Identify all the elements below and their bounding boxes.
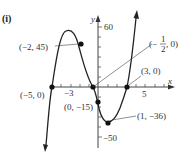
x-tick-label: −3 <box>64 88 74 98</box>
x-axis-label: x <box>167 76 172 86</box>
y-axis-label: y <box>90 14 95 24</box>
point-label: (1, −36) <box>137 111 166 121</box>
point-label: (3, 0) <box>141 66 161 76</box>
point-label: (−2, 45) <box>19 42 48 52</box>
x-tick-label: 5 <box>142 89 147 99</box>
point-label-fraction: (− 1 2 , 0) <box>149 34 178 54</box>
y-tick-label: −50 <box>103 133 118 143</box>
point-label: (−5, 0) <box>20 90 45 100</box>
svg-text:2: 2 <box>161 44 166 54</box>
point-label: (0, −15) <box>64 102 93 112</box>
svg-text:(−: (− <box>149 39 157 49</box>
x-axis: x −3 5 <box>52 76 175 99</box>
function-curve <box>46 18 136 145</box>
curve-arrow-up <box>134 10 140 19</box>
svg-text:1: 1 <box>161 34 166 44</box>
figure-label: (i) <box>2 13 11 25</box>
curve-arrow-down <box>43 144 48 152</box>
y-axis: y 60 −50 <box>90 14 118 148</box>
svg-text:, 0): , 0) <box>166 39 178 49</box>
y-tick-label: 60 <box>104 22 114 32</box>
function-graph: (i) x −3 5 <box>0 0 180 163</box>
